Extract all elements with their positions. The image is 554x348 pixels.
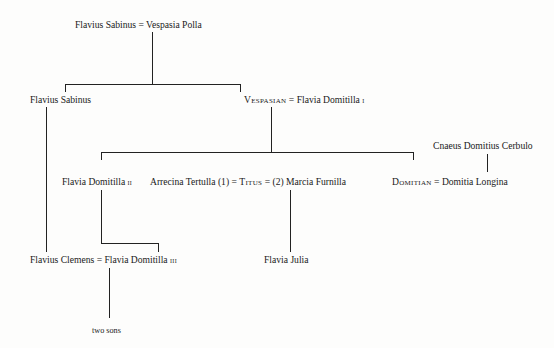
marriage-sign: = — [289, 94, 294, 105]
descent-line-sabinus-to-clemens — [46, 107, 47, 252]
ordinal-i: i — [362, 96, 364, 105]
marriage-number-2: (2) — [272, 176, 283, 187]
marriage-sign: = — [231, 176, 236, 187]
person-flavia-julia: Flavia Julia — [264, 254, 309, 266]
tick-domitilla-iii — [158, 243, 159, 252]
sibling-bar-gen3 — [101, 152, 414, 153]
person-domitian: Domitian — [392, 176, 432, 187]
tick-sabinus-jr — [65, 84, 66, 92]
person-two-sons: two sons — [92, 325, 121, 337]
couple-sabinus-vespasia: Flavius Sabinus = Vespasia Polla — [75, 19, 202, 31]
titus-marriages: Arrecina Tertulla (1) = Titus = (2) Marc… — [150, 176, 346, 188]
descent-line-vespasian — [271, 107, 272, 152]
name-flavia-domitilla: Flavia Domitilla — [62, 176, 125, 187]
person-vespasian: Vespasian — [244, 94, 286, 105]
marriage-sign: = — [265, 176, 270, 187]
person-flavius-sabinus-younger: Flavius Sabinus — [30, 94, 91, 106]
person-cnaeus-domitius-cerbulo: Cnaeus Domitius Cerbulo — [433, 140, 533, 152]
tick-domitilla-ii — [101, 152, 102, 160]
ordinal-iii: iii — [170, 256, 177, 265]
connector-domitilla-ii-to-iii — [101, 243, 159, 244]
person-flavius-clemens: Flavius Clemens — [30, 254, 94, 265]
tick-domitian — [413, 152, 414, 160]
person-arrecina-tertulla: Arrecina Tertulla — [150, 176, 215, 187]
couple-vespasian-domitilla: Vespasian = Flavia Domitilla i — [244, 94, 365, 107]
couple-clemens-domitilla-iii: Flavius Clemens = Flavia Domitilla iii — [30, 254, 177, 267]
person-marcia-furnilla: Marcia Furnilla — [286, 176, 346, 187]
person-vespasia-polla: Vespasia Polla — [146, 19, 202, 30]
person-domitia-longina: Domitia Longina — [442, 176, 508, 187]
person-flavia-domitilla-i: Flavia Domitilla — [297, 94, 360, 105]
person-flavia-domitilla-ii: Flavia Domitilla ii — [62, 176, 132, 189]
ordinal-ii: ii — [128, 178, 133, 187]
tick-vespasian — [240, 84, 241, 92]
person-titus: Titus — [239, 176, 262, 187]
descent-line-domitilla-ii — [101, 190, 102, 243]
person-flavia-domitilla-iii: Flavia Domitilla — [104, 254, 167, 265]
descent-line-titus — [290, 190, 291, 252]
marriage-sign: = — [97, 254, 102, 265]
sibling-bar-gen2 — [65, 84, 241, 85]
descent-line-gen1 — [152, 32, 153, 84]
marriage-sign: = — [138, 19, 143, 30]
descent-line-clemens — [109, 268, 110, 318]
marriage-number-1: (1) — [218, 176, 229, 187]
couple-domitian-domitia: Domitian = Domitia Longina — [392, 176, 508, 188]
person-flavius-sabinus-elder: Flavius Sabinus — [75, 19, 136, 30]
marriage-sign: = — [434, 176, 439, 187]
descent-line-cerbulo — [487, 154, 488, 172]
